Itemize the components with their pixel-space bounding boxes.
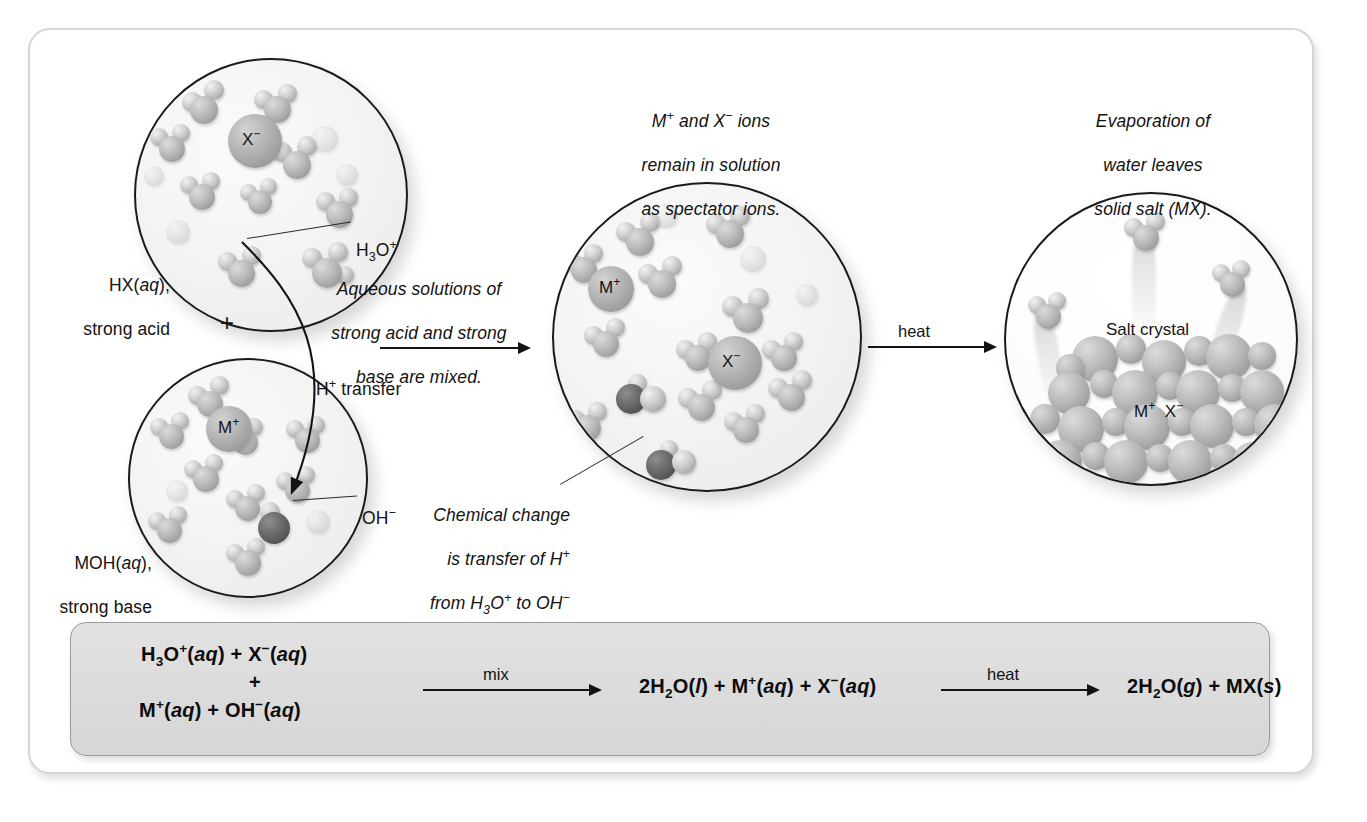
spectator-caption-line1: M+ and X− ions	[652, 111, 770, 131]
background-blob	[166, 220, 190, 244]
cation-label: M+	[218, 418, 239, 438]
figure-canvas: X− HX(aq), strong acid + H3O+	[0, 0, 1367, 822]
background-blob	[312, 126, 338, 152]
background-blob	[796, 284, 818, 306]
spectator-caption-line3: as spectator ions.	[642, 199, 781, 219]
acid-label-line2: strong acid	[83, 319, 170, 339]
equation-mix-arrow-label: mix	[483, 665, 509, 684]
background-blob	[740, 246, 766, 272]
anion-label: X−	[722, 352, 741, 372]
cation-label: M+	[599, 278, 620, 298]
equation-product2: 2H2O(g) + MX(s)	[1127, 675, 1282, 698]
spectator-caption: M+ and X− ions remain in solution as spe…	[578, 88, 844, 220]
equation-product1: 2H2O(l) + M+(aq) + X−(aq)	[639, 675, 876, 698]
evaporation-caption-line1: Evaporation of	[1096, 111, 1210, 131]
equation-reactant-line2: M+(aq) + OH−(aq)	[139, 699, 301, 722]
evaporation-caption: Evaporation of water leaves solid salt (…	[1030, 88, 1276, 220]
acid-label: HX(aq), strong acid	[10, 252, 170, 340]
salt-crystal-inner-label: Salt crystal	[1106, 320, 1189, 340]
equation-heat-arrow-label: heat	[987, 665, 1019, 684]
mix-caption-line2: strong acid and strong	[331, 323, 506, 343]
base-label-line1: MOH(aq),	[74, 553, 152, 573]
salt-crystal-circle: Salt crystal M+ X−	[1004, 192, 1298, 486]
background-blob	[166, 480, 188, 502]
background-blob	[144, 166, 164, 186]
acid-label-line1: HX(aq),	[109, 275, 170, 295]
heat-arrow-label: heat	[898, 322, 930, 341]
equation-reactant-plus: +	[249, 671, 261, 694]
base-label: MOH(aq), strong base	[0, 530, 152, 618]
background-blob	[336, 164, 358, 186]
chemical-change-line2: is transfer of H+	[447, 549, 570, 569]
chemical-change-line3: from H3O+ to OH−	[430, 593, 570, 613]
chemical-change-line1: Chemical change	[433, 505, 570, 525]
equation-reactant-line1: H3O+(aq) + X−(aq)	[141, 643, 307, 666]
summary-equation-panel: H3O+(aq) + X−(aq) + M+(aq) + OH−(aq) mix…	[70, 622, 1270, 756]
evaporation-caption-line2: water leaves	[1103, 155, 1202, 175]
base-label-line2: strong base	[59, 597, 152, 617]
mixed-solution-circle: M+ X−	[552, 182, 862, 492]
spectator-caption-line2: remain in solution	[642, 155, 781, 175]
mix-caption: Aqueous solutions of strong acid and str…	[290, 256, 548, 388]
mix-caption-line1: Aqueous solutions of	[337, 279, 501, 299]
mix-caption-line3: base are mixed.	[356, 367, 482, 387]
anion-label: X−	[242, 130, 261, 150]
evaporation-caption-line3: solid salt (MX).	[1094, 199, 1211, 219]
lattice-ion-labels: M+ X−	[1134, 402, 1183, 422]
